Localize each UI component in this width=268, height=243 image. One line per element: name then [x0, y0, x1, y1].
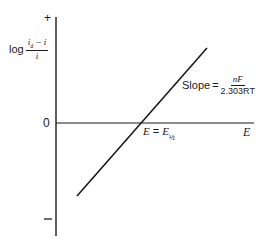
slope-equals: =	[212, 80, 218, 91]
y-tick-zero: 0	[43, 117, 50, 129]
half-wave-annotation: E = E½	[143, 126, 175, 141]
y-axis-label: log id − i i	[9, 38, 48, 61]
ehalf-subscript: ½	[169, 134, 175, 141]
y-label-num-rest: − i	[33, 37, 46, 47]
y-tick-plus: +	[44, 12, 51, 24]
slope-prefix: Slope	[182, 80, 210, 91]
data-line	[77, 48, 207, 196]
slope-annotation: Slope = nF 2.303RT	[182, 75, 255, 96]
slope-fraction: nF 2.303RT	[221, 75, 255, 96]
y-label-denominator: i	[36, 51, 39, 61]
x-axis-label: E	[243, 126, 250, 138]
y-label-fraction: id − i i	[26, 38, 49, 61]
chart-figure: + 0 log id − i i Slope = nF 2.303RT E = …	[0, 0, 268, 243]
y-label-log: log	[9, 44, 24, 55]
ehalf-equals: =	[150, 125, 163, 137]
ehalf-rhs: E	[162, 125, 169, 137]
slope-numerator: nF	[231, 75, 245, 86]
slope-denominator: 2.303RT	[221, 86, 255, 96]
y-label-numerator: id − i	[26, 38, 49, 51]
ehalf-lhs: E	[143, 125, 150, 137]
